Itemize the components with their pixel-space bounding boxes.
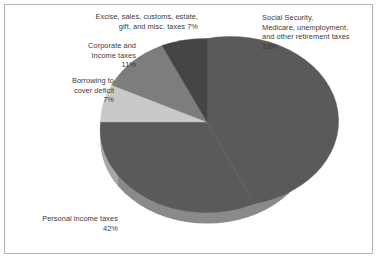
pie-label-borrowing-deficit: Borrowing to cover deficit 7%: [14, 76, 114, 105]
pie-label-personal-income: Personal income taxes 42%: [8, 214, 118, 233]
pie-label-excise-misc: Excise, sales, customs, estate, gift, an…: [44, 12, 198, 31]
pie-label-corporate-income: Corporate and Income taxes 11%: [28, 41, 136, 70]
pie-chart-figure: Social Security, Medicare, unemployment,…: [0, 0, 378, 260]
pie-label-social-security: Social Security, Medicare, unemployment,…: [262, 13, 370, 51]
